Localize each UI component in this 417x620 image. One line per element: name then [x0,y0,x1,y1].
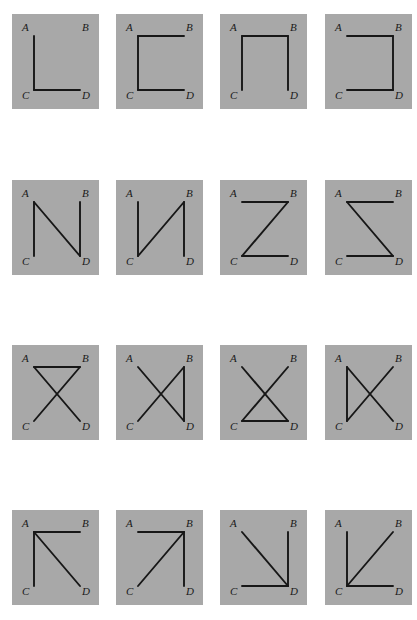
graph-panel-r3c2: ABCD [116,345,203,440]
vertex-label-c: C [335,586,342,597]
diagram-grid: ABCDABCDABCDABCDABCDABCDABCDABCDABCDABCD… [0,0,417,620]
vertex-label-c: C [22,421,29,432]
vertex-label-c: C [230,90,237,101]
vertex-label-a: A [126,518,133,529]
vertex-label-b: B [395,353,402,364]
vertex-label-a: A [335,188,342,199]
vertex-label-b: B [395,188,402,199]
vertex-label-d: D [82,586,90,597]
graph-panel-r1c4: ABCD [325,14,412,109]
vertex-label-d: D [82,90,90,101]
vertex-label-a: A [230,22,237,33]
edge-BC [347,532,393,586]
vertex-label-b: B [290,22,297,33]
vertex-label-b: B [395,22,402,33]
vertex-label-b: B [82,22,89,33]
graph-panel-r1c3: ABCD [220,14,307,109]
graph-panel-r4c4: ABCD [325,510,412,605]
vertex-label-b: B [186,518,193,529]
edge-BC [138,532,184,586]
vertex-label-a: A [335,353,342,364]
vertex-label-c: C [335,256,342,267]
graph-panel-r2c3: ABCD [220,180,307,275]
vertex-label-b: B [395,518,402,529]
graph-panel-r4c3: ABCD [220,510,307,605]
vertex-label-c: C [22,256,29,267]
edge-AD [347,202,393,256]
vertex-label-b: B [186,353,193,364]
vertex-label-d: D [186,90,194,101]
vertex-label-d: D [395,586,403,597]
edge-AD [34,532,80,586]
vertex-label-a: A [230,353,237,364]
vertex-label-a: A [22,22,29,33]
vertex-label-a: A [335,22,342,33]
vertex-label-c: C [126,90,133,101]
graph-panel-r3c1: ABCD [12,345,99,440]
vertex-label-a: A [126,188,133,199]
graph-panel-r4c1: ABCD [12,510,99,605]
edge-AD [34,202,80,256]
vertex-label-c: C [126,256,133,267]
vertex-label-d: D [395,421,403,432]
vertex-label-a: A [335,518,342,529]
vertex-label-d: D [82,256,90,267]
vertex-label-a: A [126,353,133,364]
vertex-label-d: D [290,421,298,432]
vertex-label-c: C [126,586,133,597]
vertex-label-b: B [290,188,297,199]
graph-panel-r1c1: ABCD [12,14,99,109]
vertex-label-a: A [22,353,29,364]
vertex-label-a: A [230,188,237,199]
edge-AD [242,532,288,586]
vertex-label-c: C [22,586,29,597]
graph-panel-r3c4: ABCD [325,345,412,440]
graph-panel-r4c2: ABCD [116,510,203,605]
vertex-label-c: C [230,256,237,267]
vertex-label-a: A [22,188,29,199]
graph-panel-r2c4: ABCD [325,180,412,275]
vertex-label-a: A [22,518,29,529]
vertex-label-b: B [290,353,297,364]
vertex-label-c: C [335,90,342,101]
graph-panel-r1c2: ABCD [116,14,203,109]
vertex-label-b: B [186,188,193,199]
vertex-label-d: D [290,586,298,597]
graph-panel-r3c3: ABCD [220,345,307,440]
vertex-label-b: B [82,518,89,529]
vertex-label-c: C [230,586,237,597]
vertex-label-a: A [230,518,237,529]
vertex-label-c: C [126,421,133,432]
graph-panel-r2c2: ABCD [116,180,203,275]
vertex-label-b: B [82,353,89,364]
vertex-label-d: D [186,256,194,267]
vertex-label-d: D [82,421,90,432]
edge-BC [138,202,184,256]
vertex-label-a: A [126,22,133,33]
vertex-label-c: C [335,421,342,432]
vertex-label-d: D [395,256,403,267]
vertex-label-b: B [290,518,297,529]
vertex-label-c: C [230,421,237,432]
vertex-label-c: C [22,90,29,101]
vertex-label-d: D [186,421,194,432]
vertex-label-d: D [290,256,298,267]
vertex-label-d: D [186,586,194,597]
graph-panel-r2c1: ABCD [12,180,99,275]
vertex-label-d: D [395,90,403,101]
vertex-label-b: B [186,22,193,33]
vertex-label-d: D [290,90,298,101]
edge-BC [242,202,288,256]
vertex-label-b: B [82,188,89,199]
